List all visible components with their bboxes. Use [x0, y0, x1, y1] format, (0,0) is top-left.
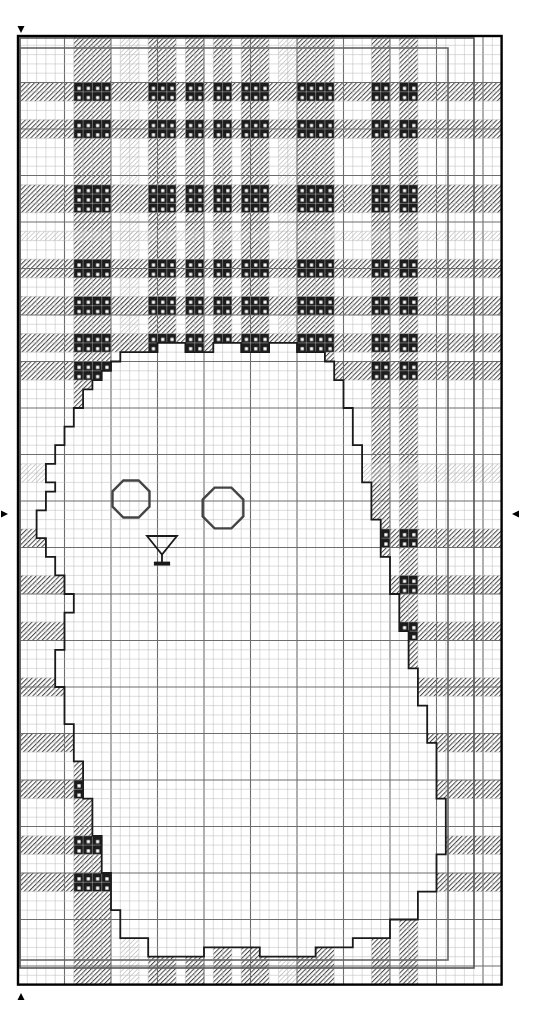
chart-canvas: [0, 0, 535, 1016]
plaid-intersection-block: [241, 185, 269, 213]
bottom-center-marker: [18, 993, 25, 1000]
plaid-intersection-block: [148, 185, 176, 213]
chart-body: [18, 36, 502, 985]
cross-stitch-chart: [0, 0, 535, 1016]
right-center-marker: [512, 511, 519, 518]
left-center-marker: [1, 511, 8, 518]
top-center-marker: [18, 26, 25, 33]
